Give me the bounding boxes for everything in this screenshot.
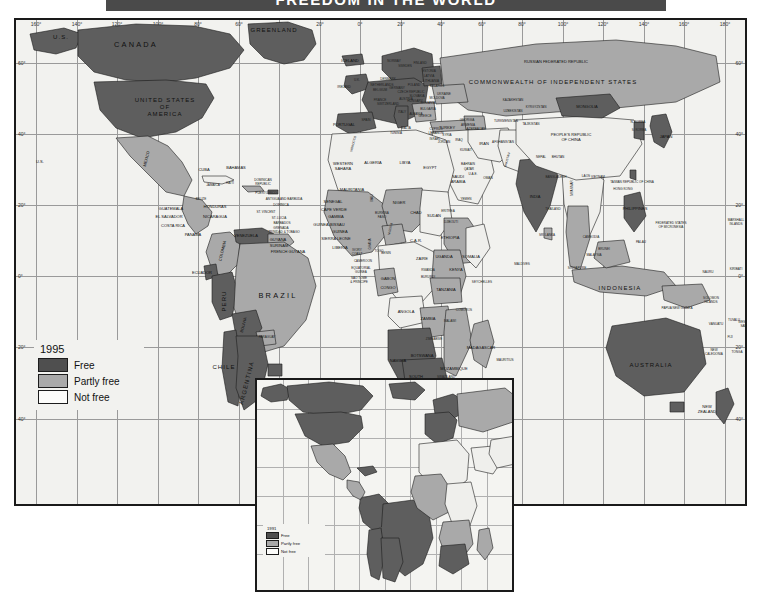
- country-label: UNITED STATESOFAMERICA: [135, 97, 196, 118]
- country-label: VANUATU: [709, 323, 723, 327]
- country-label: MOLDOVA: [429, 97, 444, 101]
- country-label: EL SALVADOR: [155, 215, 182, 220]
- country-label: MAURITIUS: [496, 359, 513, 363]
- country-label: NEWCALEDONIA: [705, 349, 723, 356]
- country-label: JAPAN: [660, 135, 673, 140]
- country-label: HONG KONG: [613, 188, 632, 192]
- country-label: ITALY: [398, 111, 406, 115]
- country-label: SINGAPORE: [568, 267, 586, 271]
- legend-row-partly-free: Partly free: [38, 374, 140, 388]
- country-label: SEYCHELLES: [472, 281, 492, 285]
- country-label: ROMANIA: [421, 102, 435, 106]
- inset-legend-swatch-free: [266, 532, 279, 539]
- country-label: NEPAL: [536, 156, 546, 160]
- country-label: JAMAICA: [206, 184, 219, 188]
- country-label: U.S.: [53, 34, 69, 41]
- inset-legend-swatch-not-free: [266, 548, 279, 555]
- country-label: SOMALIA: [462, 255, 480, 260]
- country-label: C.A.R.: [410, 239, 422, 244]
- country-label: FINLAND: [413, 62, 426, 66]
- country-label: PALAU: [636, 241, 646, 245]
- legend-label-partly-free: Partly free: [74, 376, 120, 387]
- country-label: MADAGASCAR: [467, 346, 495, 351]
- inset-legend-swatch-partly-free: [266, 540, 279, 547]
- country-label: KAZAKHSTAN: [503, 99, 523, 103]
- country-label: BURUNDI: [421, 276, 435, 280]
- country-label: MYANMAR: [571, 180, 575, 196]
- country-label: CAMBODIA: [583, 236, 600, 240]
- country-label: U.S.: [36, 160, 44, 165]
- country-label: NAMIBIA: [390, 359, 406, 364]
- country-label: TURKEY: [439, 126, 455, 131]
- legend-swatch-partly-free: [38, 374, 68, 388]
- country-label: INDONESIA: [599, 285, 642, 292]
- country-label: MALTA: [401, 127, 411, 131]
- country-label: BULGARIA: [420, 108, 436, 112]
- country-label: IRAQ: [455, 139, 463, 143]
- country-label: NAURU: [702, 271, 713, 275]
- country-label: NICARAGUA: [203, 215, 227, 220]
- country-label: SWITZERLAND: [377, 103, 399, 107]
- country-label: PANAMA: [185, 233, 202, 238]
- country-label: CANADA: [114, 41, 158, 50]
- country-label: SIERRA LEONE: [321, 237, 350, 242]
- country-label: CHAD: [410, 211, 421, 216]
- country-label: ZIMBABWE: [426, 338, 443, 342]
- country-label: PAPUA NEW GUINEA: [662, 307, 693, 311]
- country-label: AUSTRALIA: [629, 362, 672, 369]
- country-label: PORTUGAL: [333, 123, 355, 128]
- country-label: ST. VINCENT: [257, 211, 276, 215]
- country-label: S. KOREA: [632, 129, 647, 133]
- country-label: KENYA: [449, 268, 462, 273]
- country-label: HAITI: [226, 182, 234, 186]
- country-label: TURKMENISTAN: [494, 120, 518, 124]
- country-label: SAUDIARABIA: [451, 175, 466, 184]
- inset-world-map-1991: 1991 Free Partly free Not free: [255, 378, 514, 592]
- map-legend-1995: 1995 Free Partly free Not free: [34, 340, 144, 410]
- country-label: COSTA RICA: [161, 224, 185, 229]
- country-label: CHILE: [212, 364, 235, 371]
- country-label: GUYANA: [270, 238, 287, 243]
- country-label: CUBA: [198, 168, 209, 173]
- country-label: BRAZIL: [258, 292, 297, 301]
- country-label: DJIBOUTI: [444, 221, 458, 225]
- country-label: N. KOREA: [631, 121, 646, 125]
- legend-year: 1995: [40, 343, 140, 355]
- country-label: LAOS: [582, 175, 590, 179]
- country-label: CONGO: [380, 286, 395, 291]
- country-label: TAIWAN REPUBLIC OF CHINA: [610, 181, 654, 185]
- country-label: U.A.E.: [469, 173, 478, 177]
- country-label: IRAN: [479, 142, 489, 147]
- country-label: GAMBIA: [328, 215, 344, 220]
- country-label: EGYPT: [423, 166, 437, 171]
- country-label: FRENCH GUYANA: [271, 250, 305, 255]
- country-label: KUWAIT: [460, 149, 472, 153]
- inset-legend-row-partly-free: Partly free: [266, 540, 323, 547]
- country-label: BAHAMAS: [226, 166, 246, 171]
- country-label: MOZAMBIQUE: [440, 367, 467, 372]
- map-title-band: FREEDOM IN THE WORLD: [106, 0, 666, 11]
- country-label: DOMINICANREPUBLIC: [254, 179, 272, 186]
- country-label: YEMEN: [460, 198, 471, 202]
- country-label: BELARUS: [430, 85, 444, 89]
- country-label: INDIA: [530, 195, 541, 200]
- country-label: FEDERATED STATESOF MICRONESIA: [656, 222, 687, 229]
- country-label: GHANA: [369, 238, 373, 249]
- inset-legend-row-not-free: Not free: [266, 548, 323, 555]
- country-label: MALDIVES: [514, 263, 530, 267]
- country-label: GUINEA: [332, 230, 347, 235]
- country-label: ANTIGUA AND BARBUDA: [266, 198, 303, 202]
- country-label: LIBERIA: [332, 246, 347, 251]
- inset-map-legend-1991: 1991 Free Partly free Not free: [263, 524, 325, 557]
- country-label: GREENLAND: [250, 27, 297, 34]
- country-label: BRUNEI: [598, 248, 610, 252]
- country-label: PEOPLE'S REPUBLICOF CHINA: [551, 133, 592, 142]
- country-label: SPAIN: [361, 119, 370, 123]
- country-label: MARSHALLISLANDS: [728, 219, 745, 226]
- country-label: NEWZEALAND: [698, 405, 716, 414]
- country-label: MAURITANIA: [340, 188, 364, 193]
- country-label: CAPE VERDE: [321, 208, 347, 213]
- country-label: BENIN: [381, 252, 390, 256]
- legend-swatch-free: [38, 358, 68, 372]
- country-label: MONGOLIA: [576, 105, 598, 110]
